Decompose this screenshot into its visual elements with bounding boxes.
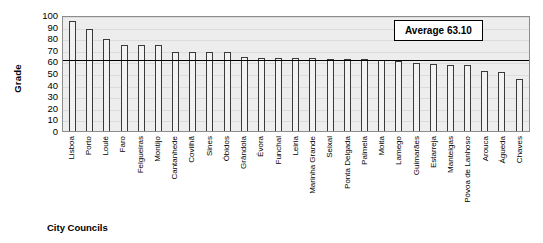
y-axis-tick-label: 0	[53, 127, 58, 137]
bar	[395, 61, 402, 131]
x-axis-category-label: Felgueiras	[137, 134, 144, 226]
bar	[258, 58, 265, 131]
x-axis-category-label: Funchal	[275, 134, 282, 226]
x-axis-category-text: Arouca	[482, 136, 490, 161]
x-axis-category-text: Leiria	[292, 136, 300, 156]
x-axis-category-label: Porto	[85, 134, 92, 226]
bar	[481, 71, 488, 131]
x-axis-category-label: Óbidos	[223, 134, 230, 226]
x-axis-category-label: Estarreja	[430, 134, 437, 226]
bar	[69, 21, 76, 131]
y-axis-title: Grade	[8, 38, 26, 118]
x-axis-category-text: Chaves	[516, 136, 524, 163]
bar	[464, 65, 471, 131]
bar	[413, 63, 420, 131]
y-axis-tick-label: 40	[47, 81, 58, 91]
x-axis-category-text: Marinha Grande	[309, 136, 317, 194]
x-axis-category-label: Guimarães	[413, 134, 420, 226]
x-axis-category-label: Leiria	[292, 134, 299, 226]
bar	[447, 65, 454, 131]
x-axis-category-label: Grândola	[241, 134, 248, 226]
bar	[86, 29, 93, 131]
x-axis-category-text: Cantanhede	[171, 136, 179, 180]
x-axis-category-text: Évora	[257, 136, 265, 157]
x-axis-category-label: Marinha Grande	[310, 134, 317, 226]
bar	[189, 52, 196, 131]
x-axis-category-text: Águeda	[499, 136, 507, 164]
x-axis-category-text: Felgueiras	[137, 136, 145, 173]
y-axis-tick-labels: 1009080706050403020100	[32, 14, 58, 132]
x-axis-category-text: Palmela	[361, 136, 369, 165]
x-axis-category-label: Loulé	[103, 134, 110, 226]
bar	[138, 45, 145, 131]
x-axis-category-text: Faro	[119, 136, 127, 152]
y-axis-tick-label: 50	[47, 69, 58, 79]
x-axis-category-text: Manteigas	[447, 136, 455, 173]
x-axis-category-text: Seixal	[326, 136, 334, 158]
x-axis-category-label: Manteigas	[448, 134, 455, 226]
x-axis-category-labels: LisboaPortoLouléFaroFelgueirasMontijoCan…	[62, 134, 530, 226]
x-axis-category-label: Seixal	[327, 134, 334, 226]
x-axis-category-label: Sines	[206, 134, 213, 226]
y-axis-title-label: Grade	[12, 64, 23, 92]
y-axis-tick-label: 80	[47, 34, 58, 44]
bar	[516, 79, 523, 131]
x-axis-category-label: Águeda	[499, 134, 506, 226]
x-axis-category-label: Ponta Delgada	[344, 134, 351, 226]
bar	[206, 52, 213, 131]
x-axis-category-text: Guimarães	[413, 136, 421, 175]
x-axis-category-text: Póvoa de Lanhoso	[464, 136, 472, 203]
bar	[172, 52, 179, 131]
x-axis-category-text: Moita	[378, 136, 386, 156]
x-axis-category-label: Covilhã	[189, 134, 196, 226]
x-axis-category-text: Covilhã	[188, 136, 196, 163]
x-axis-category-label: Moita	[379, 134, 386, 226]
x-axis-category-label: Póvoa de Lanhoso	[465, 134, 472, 226]
y-axis-tick-label: 90	[47, 23, 58, 33]
bar	[309, 58, 316, 131]
y-axis-tick-label: 10	[47, 115, 58, 125]
bar	[430, 64, 437, 131]
x-axis-category-text: Ponta Delgada	[344, 136, 352, 189]
x-axis-category-label: Lamego	[396, 134, 403, 226]
bar	[378, 60, 385, 131]
x-axis-category-label: Cantanhede	[172, 134, 179, 226]
bar	[121, 45, 128, 131]
bar	[224, 52, 231, 131]
x-axis-category-label: Évora	[258, 134, 265, 226]
x-axis-category-text: Funchal	[275, 136, 283, 164]
bar	[361, 59, 368, 131]
bar	[275, 58, 282, 131]
x-axis-category-text: Lamego	[395, 136, 403, 165]
x-axis-category-text: Estarreja	[430, 136, 438, 168]
x-axis-category-text: Óbidos	[223, 136, 231, 161]
y-axis-tick-label: 100	[42, 11, 58, 21]
x-axis-category-label: Faro	[120, 134, 127, 226]
y-axis-tick-label: 30	[47, 92, 58, 102]
x-axis-category-text: Montijo	[154, 136, 162, 162]
x-axis-category-text: Porto	[85, 136, 93, 155]
bar	[241, 57, 248, 131]
x-axis-category-text: Loulé	[102, 136, 110, 156]
bar	[327, 59, 334, 131]
x-axis-category-text: Sines	[206, 136, 214, 156]
x-axis-category-label: Chaves	[517, 134, 524, 226]
bar	[103, 39, 110, 131]
x-axis-category-label: Montijo	[154, 134, 161, 226]
bar	[292, 58, 299, 131]
y-axis-tick-label: 70	[47, 46, 58, 56]
x-axis-title: City Councils	[47, 222, 108, 233]
bar	[155, 45, 162, 131]
bar	[498, 72, 505, 131]
average-reference-line	[63, 60, 529, 61]
y-axis-tick-label: 20	[47, 104, 58, 114]
x-axis-category-label: Lisboa	[68, 134, 75, 226]
x-axis-category-label: Palmela	[361, 134, 368, 226]
x-axis-category-text: Grândola	[240, 136, 248, 169]
x-axis-category-label: Arouca	[482, 134, 489, 226]
bar	[344, 59, 351, 131]
bar-chart: Grade 1009080706050403020100 Average 63.…	[0, 0, 543, 243]
average-annotation-box: Average 63.10	[394, 20, 483, 41]
x-axis-category-text: Lisboa	[68, 136, 76, 160]
y-axis-tick-label: 60	[47, 57, 58, 67]
